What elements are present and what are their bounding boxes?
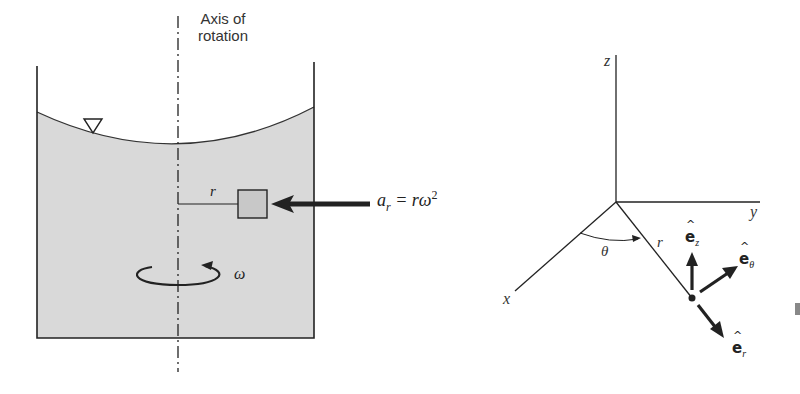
acceleration-label: ar = rω2 (377, 188, 438, 215)
e-r-sub: r (742, 348, 746, 359)
axis-label-line2: rotation (186, 27, 260, 44)
cropped-caption-mark (795, 303, 800, 315)
axis-label-line1: Axis of (186, 10, 260, 27)
accel-eq: = rω (391, 190, 432, 210)
e-theta-sub: θ (749, 259, 754, 270)
rotating-tank-diagram (37, 16, 370, 372)
hat-icon: ^ (733, 329, 742, 342)
accel-a: a (377, 190, 386, 210)
theta-label: θ (601, 243, 608, 260)
radius-vector-line (616, 202, 692, 298)
e-z-sub: z (695, 237, 699, 248)
hat-icon: ^ (686, 218, 695, 231)
e-z-arrow-head-icon (686, 252, 698, 266)
radius-label: r (210, 183, 216, 200)
hat-icon: ^ (740, 240, 749, 253)
x-axis-label: x (503, 290, 510, 308)
e-z-label: ^ez (685, 228, 699, 248)
axis-of-rotation-label: Axis of rotation (186, 10, 260, 44)
cylindrical-coordinates-diagram (515, 55, 760, 338)
r-vector-label: r (657, 234, 663, 251)
e-r-arrow-shaft (698, 305, 716, 328)
point-dot (689, 295, 696, 302)
accel-sup: 2 (432, 188, 438, 202)
e-r-label: ^er (732, 339, 746, 359)
y-axis-label: y (750, 203, 757, 221)
fluid-region (37, 107, 314, 338)
theta-arrow-head-icon (632, 235, 641, 242)
theta-arc (580, 233, 638, 241)
fluid-particle (238, 190, 267, 218)
omega-label: ω (234, 265, 245, 283)
e-theta-arrow-shaft (700, 273, 728, 292)
z-axis-label: z (604, 52, 610, 70)
e-theta-label: ^eθ (739, 250, 754, 270)
